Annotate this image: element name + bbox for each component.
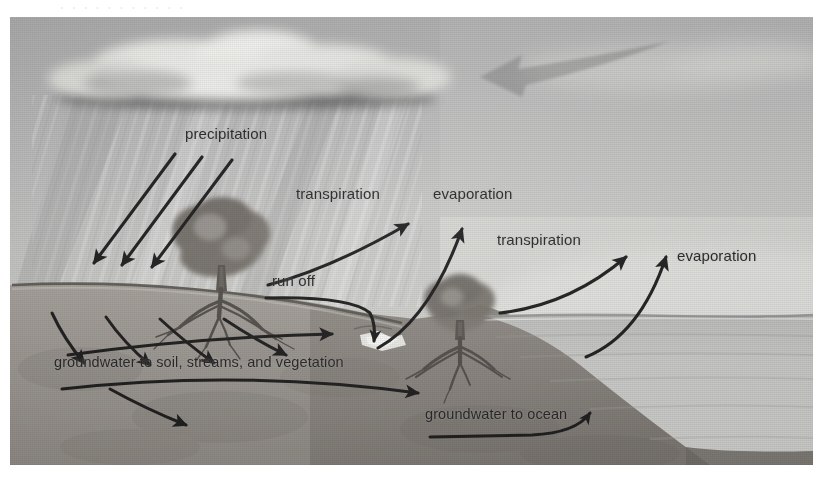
label-evaporation-right: evaporation — [677, 247, 757, 264]
label-groundwater-to-ocean: groundwater to ocean — [425, 406, 567, 422]
page-root: · · · · · · · · · · · — [0, 0, 823, 478]
label-run-off: run off — [272, 272, 315, 289]
scan-bleed-text: · · · · · · · · · · · — [60, 0, 760, 16]
label-transpiration-left: transpiration — [296, 185, 380, 202]
water-cycle-figure: precipitation transpiration evaporation … — [10, 17, 813, 465]
label-groundwater-to-soil: groundwater to soil, streams, and vegeta… — [54, 354, 344, 370]
label-precipitation: precipitation — [185, 125, 267, 142]
water-cycle-illustration — [10, 17, 813, 465]
label-transpiration-right: transpiration — [497, 231, 581, 248]
label-evaporation-left: evaporation — [433, 185, 513, 202]
